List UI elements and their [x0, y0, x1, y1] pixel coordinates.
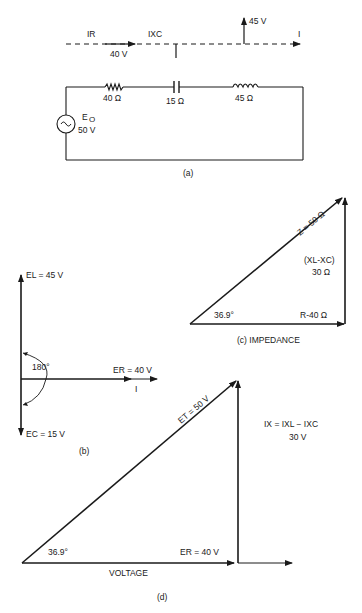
inductor-symbol	[233, 84, 258, 87]
figure-a-phasor-line: IR 40 V IXC 45 V I	[66, 16, 300, 59]
i-label: I	[298, 29, 300, 39]
figure-b-phasors: EL = 45 V 180° ER = 40 V I EC = 15 V (b)	[21, 270, 157, 456]
z-label: Z = 50 Ω	[295, 209, 327, 238]
angle-label-b: 180°	[32, 362, 50, 372]
caption-c: (c) IMPEDANCE	[237, 335, 300, 345]
xl-value: 45 V	[249, 16, 267, 26]
sine-wave-icon	[61, 122, 71, 126]
ir-label: IR	[87, 29, 96, 39]
ix-label-line-2: 30 V	[289, 432, 307, 442]
voltage-axis-label: VOLTAGE	[109, 568, 148, 578]
caption-b: (b)	[79, 446, 90, 456]
er-label-d: ER = 40 V	[180, 547, 219, 557]
i-label-b: I	[135, 384, 137, 394]
angle-label-c: 36.9°	[214, 310, 234, 320]
resistor-value: 40 Ω	[103, 93, 121, 103]
diagram-canvas: IR 40 V IXC 45 V I 40 Ω 15 Ω 45 Ω E O 50…	[0, 0, 362, 613]
inductor-value: 45 Ω	[235, 93, 253, 103]
figure-c-impedance-triangle: Z = 50 Ω (XL-XC) 30 Ω 36.9° R-40 Ω (c) I…	[190, 198, 345, 345]
source-label: E	[82, 112, 88, 122]
et-arrow	[22, 381, 236, 563]
resistor-symbol	[105, 84, 123, 90]
x-label-line-1: (XL-XC)	[304, 255, 335, 265]
x-label-line-2: 30 Ω	[312, 267, 330, 277]
ir-value: 40 V	[110, 49, 128, 59]
capacitor-value: 15 Ω	[166, 96, 184, 106]
figure-d-voltage-triangle: ET = 50 V IX = IXL − IXC 30 V 36.9° ER =…	[22, 381, 318, 602]
source-value: 50 V	[78, 125, 96, 135]
source-subscript: O	[89, 115, 95, 124]
angle-label-d: 36.9°	[48, 547, 68, 557]
caption-d: (d)	[157, 592, 168, 602]
er-label-b: ER = 40 V	[113, 365, 152, 375]
et-label: ET = 50 V	[176, 393, 212, 425]
caption-a: (a)	[183, 168, 194, 178]
ix-label-line-1: IX = IXL − IXC	[264, 419, 318, 429]
r-label: R-40 Ω	[300, 310, 327, 320]
figure-a-circuit: 40 Ω 15 Ω 45 Ω E O 50 V (a)	[57, 81, 303, 178]
ec-label: EC = 15 V	[26, 429, 65, 439]
ixc-label: IXC	[148, 29, 162, 39]
el-label: EL = 45 V	[26, 270, 64, 280]
